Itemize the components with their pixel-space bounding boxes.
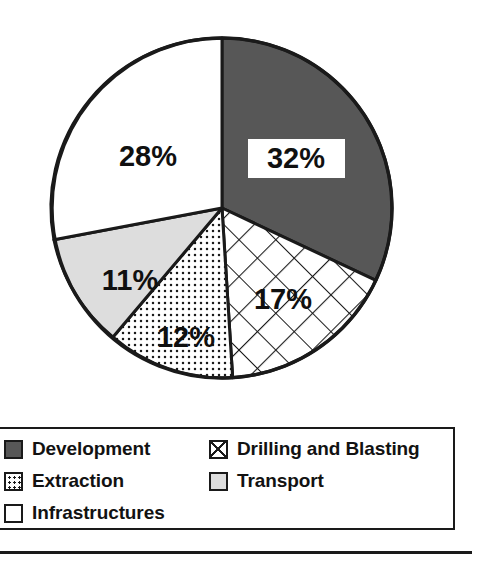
slice-label-drilling-and-blasting: 17%: [254, 283, 312, 315]
slice-label-infrastructures: 28%: [119, 140, 177, 172]
chart-legend: Development Drilling and Blasting Extrac…: [0, 427, 455, 530]
slice-label-transport: 11%: [102, 264, 159, 296]
legend-swatch-transport-icon: [209, 472, 228, 491]
legend-label-drilling-and-blasting: Drilling and Blasting: [237, 438, 420, 460]
legend-grid: Development Drilling and Blasting Extrac…: [4, 433, 450, 529]
legend-label-infrastructures: Infrastructures: [32, 502, 165, 524]
slice-label-extraction: 12%: [157, 321, 215, 353]
legend-swatch-infrastructures-icon: [4, 504, 23, 523]
legend-item-drilling-and-blasting[interactable]: Drilling and Blasting: [209, 433, 449, 465]
pie-chart-figure: 32% 17% 12% 11% 28% Development Drilling…: [0, 0, 481, 571]
legend-item-development[interactable]: Development: [4, 433, 209, 465]
legend-label-extraction: Extraction: [32, 470, 124, 492]
legend-item-extraction[interactable]: Extraction: [4, 465, 209, 497]
legend-item-transport[interactable]: Transport: [209, 465, 449, 497]
legend-label-transport: Transport: [237, 470, 324, 492]
pie-chart-plot-area: 32% 17% 12% 11% 28%: [0, 0, 481, 400]
legend-swatch-drilling-and-blasting-icon: [209, 440, 228, 459]
legend-item-infrastructures[interactable]: Infrastructures: [4, 497, 209, 529]
legend-swatch-development-icon: [4, 440, 23, 459]
pie-chart-svg: 32% 17% 12% 11% 28%: [0, 0, 481, 400]
page-divider-rule: [0, 551, 472, 554]
slice-label-development: 32%: [267, 142, 325, 174]
legend-label-development: Development: [32, 438, 150, 460]
legend-swatch-extraction-icon: [4, 472, 23, 491]
